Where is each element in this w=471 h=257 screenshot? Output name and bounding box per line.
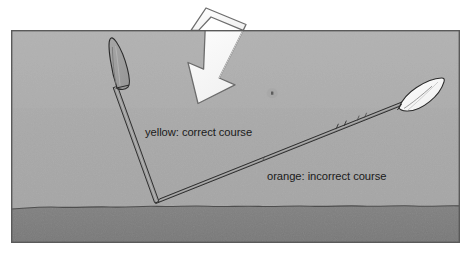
- illustration-stage: yellow: correct course orange: incorrect…: [0, 0, 471, 257]
- diagram-canvas: yellow: correct course orange: incorrect…: [0, 0, 471, 257]
- label-yellow-course: yellow: correct course: [145, 126, 252, 138]
- ground-speck-halo: [267, 88, 278, 98]
- label-orange-course: orange: incorrect course: [267, 170, 386, 182]
- ground-mass: [11, 206, 460, 243]
